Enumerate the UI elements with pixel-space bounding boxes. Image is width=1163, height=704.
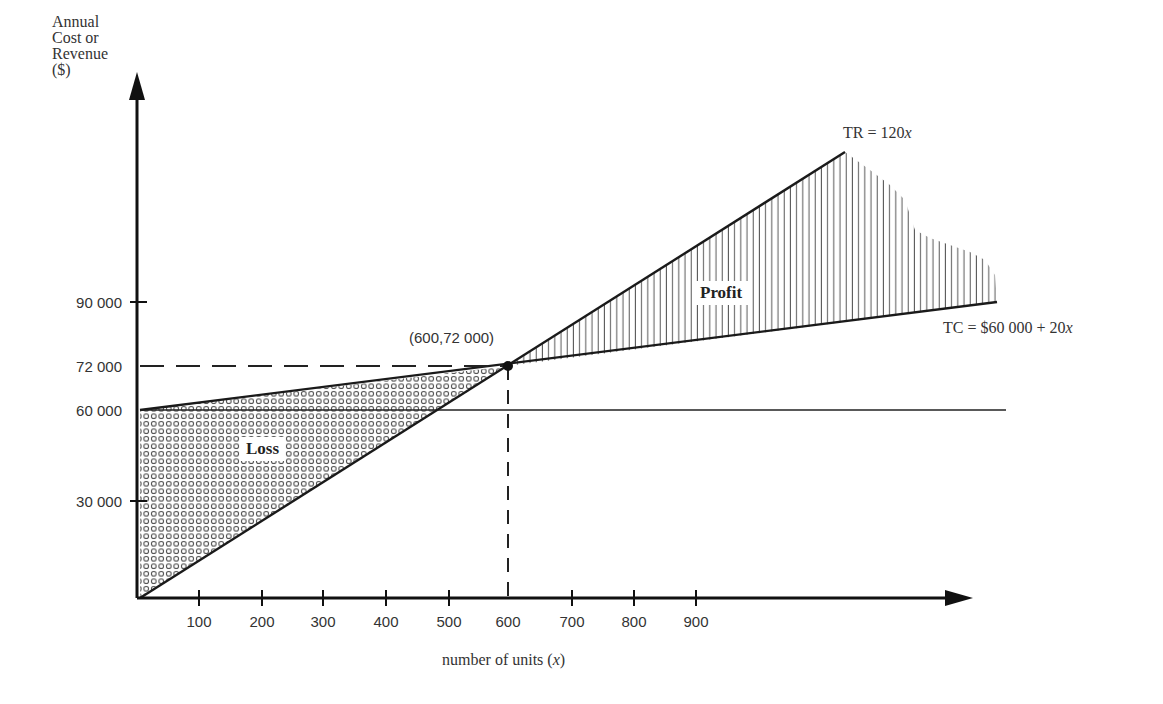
profit-label: Profit — [694, 281, 748, 305]
tr-line — [140, 152, 845, 598]
x-axis-arrow-icon — [945, 590, 973, 606]
x-tick-label: 900 — [671, 613, 721, 630]
x-tick-label: 100 — [174, 613, 224, 630]
x-tick-label: 400 — [361, 613, 411, 630]
x-tick-label: 500 — [424, 613, 474, 630]
y-tick-label-72000: 72 000 — [42, 358, 122, 375]
y-axis-label-line: Annual — [52, 14, 108, 30]
y-tick-label-90000: 90 000 — [42, 294, 122, 311]
tc-equation-label: TC = $60 000 + 20x — [943, 319, 1073, 337]
y-axis-label-line: Revenue — [52, 46, 108, 62]
loss-label: Loss — [240, 437, 285, 461]
x-tick-label: 200 — [237, 613, 287, 630]
break-even-point — [503, 361, 513, 371]
tc-line — [140, 302, 997, 410]
break-even-label: (600,72 000) — [409, 329, 494, 346]
x-tick-label: 800 — [609, 613, 659, 630]
chart-canvas — [0, 0, 1163, 704]
x-tick-label: 300 — [298, 613, 348, 630]
tr-equation-label: TR = 120x — [843, 124, 912, 142]
x-tick-label: 700 — [547, 613, 597, 630]
y-axis-label: Annual Cost or Revenue ($) — [52, 14, 108, 78]
x-axis-label: number of units (x) — [442, 652, 565, 668]
y-axis-label-line: ($) — [52, 62, 108, 78]
y-axis-arrow-icon — [129, 72, 145, 100]
y-axis-label-line: Cost or — [52, 30, 108, 46]
y-tick-label-60000: 60 000 — [42, 402, 122, 419]
x-tick-label: 600 — [483, 613, 533, 630]
y-tick-label-30000: 30 000 — [42, 493, 122, 510]
